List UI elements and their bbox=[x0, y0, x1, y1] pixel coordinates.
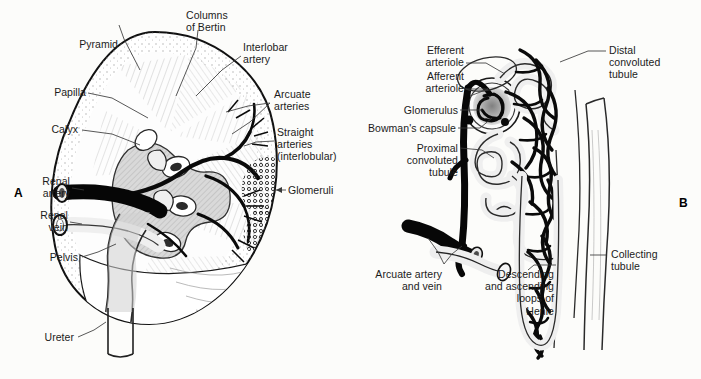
label-arcuate-artery-and-vein: Arcuate artery and vein bbox=[360, 268, 442, 292]
collecting-duct bbox=[584, 98, 609, 350]
anatomy-figure: Pyramid Columns of Bertin Interlobar art… bbox=[0, 0, 701, 379]
label-ureter: Ureter bbox=[8, 331, 74, 343]
label-columns-of-bertin: Columns of Bertin bbox=[186, 9, 256, 33]
kidney-section-illustration bbox=[51, 25, 286, 357]
label-interlobar-artery: Interlobar artery bbox=[243, 41, 313, 65]
label-loops-of-henle: Descending and ascending loops of Henle bbox=[462, 268, 554, 317]
panel-label-b: B bbox=[679, 196, 688, 210]
label-proximal-convoluted-tubule: Proximal convoluted tubule bbox=[380, 142, 458, 179]
label-afferent-arteriole: Afferent arteriole bbox=[386, 70, 464, 94]
label-renal-vein: Renal vein bbox=[8, 209, 68, 233]
label-papilla: Papilla bbox=[10, 86, 86, 98]
label-glomerulus: Glomerulus bbox=[378, 104, 458, 116]
label-distal-convoluted-tubule: Distal convoluted tubule bbox=[609, 44, 693, 81]
label-calyx: Calyx bbox=[10, 123, 78, 135]
label-collecting-tubule: Collecting tubule bbox=[611, 248, 695, 272]
label-pelvis: Pelvis bbox=[10, 251, 78, 263]
label-efferent-arteriole: Efferent arteriole bbox=[386, 44, 464, 68]
label-pyramid: Pyramid bbox=[40, 38, 118, 50]
label-glomeruli: Glomeruli bbox=[288, 184, 358, 196]
label-arcuate-arteries: Arcuate arteries bbox=[274, 88, 350, 112]
label-bowmans-capsule: Bowman's capsule bbox=[350, 122, 456, 134]
label-straight-arteries: Straight arteries (interlobular) bbox=[277, 126, 361, 163]
panel-label-a: A bbox=[14, 186, 23, 200]
